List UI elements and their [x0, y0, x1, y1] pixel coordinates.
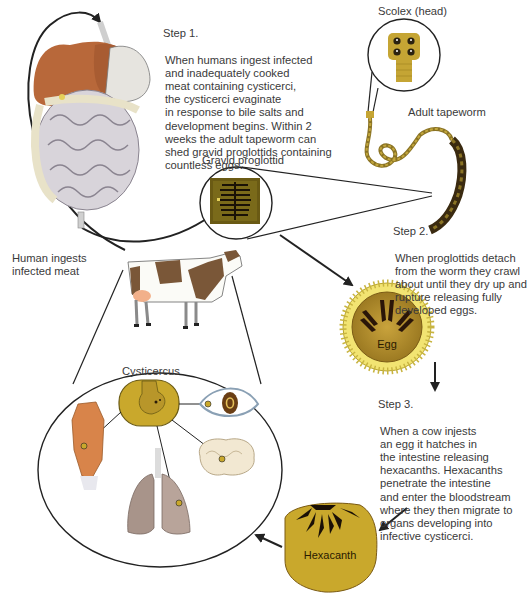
arrow-gut-to-proglottid — [82, 215, 212, 242]
hexacanth-icon — [285, 503, 377, 592]
adult-tapeworm-label: Adult tapeworm — [408, 106, 486, 118]
step-2-body: When proglottids detach from the worm th… — [393, 252, 527, 318]
egg-label: Egg — [372, 338, 402, 350]
step-2-heading: Step 2. — [393, 225, 527, 238]
digestive-system-icon — [34, 22, 150, 228]
step-2-text: Step 2. When proglottids detach from the… — [393, 212, 527, 331]
arrow-proglottid-to-egg — [280, 235, 352, 285]
cysticercus-label: Cysticercus — [122, 365, 180, 377]
step-1-heading: Step 1. — [163, 27, 332, 40]
gravid-proglottid-label: Gravid proglottid — [202, 154, 284, 166]
cow-icon — [128, 250, 242, 329]
step-3-body: When a cow injests an egg it hatches in … — [378, 425, 512, 544]
scolex-label: Scolex (head) — [378, 5, 447, 17]
brain-icon — [199, 439, 254, 475]
hexacanth-label: Hexacanth — [294, 549, 366, 561]
arrow-hexacanth-to-cysticercus — [256, 535, 282, 547]
step-3-heading: Step 3. — [378, 398, 512, 411]
scolex-icon — [368, 19, 440, 117]
step-3-text: Step 3. When a cow injests an egg it hat… — [378, 385, 512, 557]
human-ingests-label: Human ingests infected meat — [12, 252, 87, 278]
